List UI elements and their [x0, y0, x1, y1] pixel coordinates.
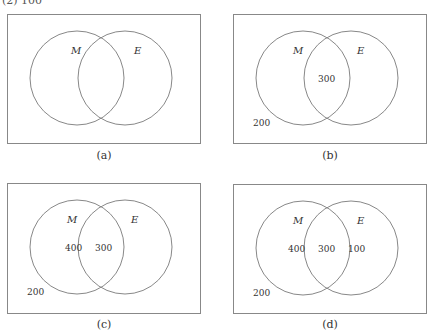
venn-panel-d: M E 400 300 100 200 — [233, 184, 427, 314]
value-only-m: 400 — [65, 243, 82, 253]
venn-panel-a: M E — [7, 14, 201, 144]
value-both: 300 — [318, 74, 335, 84]
value-both: 300 — [318, 244, 335, 254]
value-outside: 200 — [253, 288, 270, 298]
label-e: E — [356, 45, 365, 56]
partial-header-text: (2) 100 — [2, 0, 42, 7]
circle-e — [78, 200, 172, 294]
label-m: M — [66, 214, 78, 225]
label-e: E — [133, 45, 142, 56]
caption-d: (d) — [300, 318, 360, 331]
value-both: 300 — [95, 243, 112, 253]
label-m: M — [292, 215, 304, 226]
venn-panel-b: M E 300 200 — [233, 14, 427, 144]
value-outside: 200 — [253, 118, 270, 128]
value-only-m: 400 — [288, 244, 305, 254]
label-e: E — [356, 215, 365, 226]
value-outside: 200 — [27, 287, 44, 297]
venn-panel-c: M E 400 300 200 — [7, 183, 201, 314]
value-only-e: 100 — [348, 244, 365, 254]
label-m: M — [70, 45, 82, 56]
caption-b: (b) — [300, 149, 360, 162]
caption-c: (c) — [74, 318, 134, 331]
label-m: M — [292, 45, 304, 56]
label-e: E — [130, 214, 139, 225]
circle-e — [78, 31, 172, 125]
caption-a: (a) — [74, 149, 134, 162]
